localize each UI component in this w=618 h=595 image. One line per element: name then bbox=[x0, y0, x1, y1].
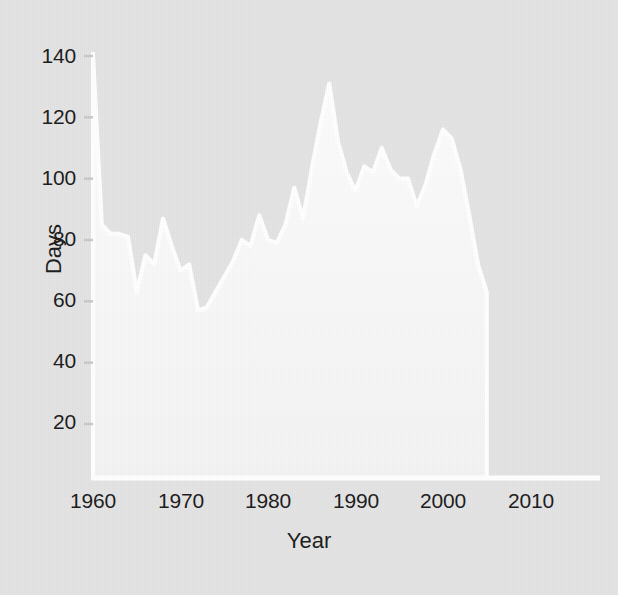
x-tick-label-1980: 1980 bbox=[218, 489, 318, 513]
x-tick-label-1970: 1970 bbox=[131, 489, 231, 513]
y-tick-label-40: 40 bbox=[14, 349, 76, 373]
y-tick-label-120: 120 bbox=[14, 105, 76, 129]
x-tick-label-2010: 2010 bbox=[481, 489, 581, 513]
x-tick-label-1960: 1960 bbox=[43, 489, 143, 513]
y-axis-title: Days bbox=[41, 189, 67, 309]
area-fill bbox=[93, 56, 487, 478]
y-tick-label-140: 140 bbox=[14, 44, 76, 68]
chart-figure: 140 120 100 80 60 40 20 1960 1970 1980 1… bbox=[0, 0, 618, 595]
plot-area bbox=[93, 56, 487, 478]
x-axis-title: Year bbox=[0, 528, 618, 554]
x-tick-label-1990: 1990 bbox=[306, 489, 406, 513]
y-tick-label-100: 100 bbox=[14, 166, 76, 190]
y-tick-label-20: 20 bbox=[14, 410, 76, 434]
x-tick-label-2000: 2000 bbox=[393, 489, 493, 513]
